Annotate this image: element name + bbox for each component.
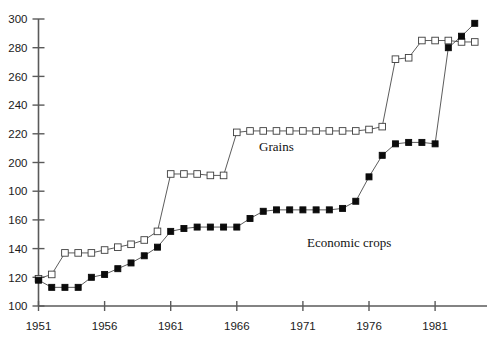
data-point-marker: [392, 141, 398, 147]
data-point-marker: [154, 228, 161, 235]
data-point-marker: [181, 226, 187, 232]
data-point-marker: [459, 33, 465, 39]
data-point-marker: [128, 241, 135, 248]
data-point-marker: [128, 260, 134, 266]
data-point-marker: [167, 171, 174, 178]
data-point-marker: [75, 250, 82, 257]
data-point-marker: [88, 274, 94, 280]
data-point-marker: [326, 128, 333, 135]
x-tick-label: 1966: [224, 320, 250, 332]
data-point-marker: [379, 152, 385, 158]
data-point-marker: [207, 172, 214, 179]
data-point-marker: [141, 237, 148, 244]
data-point-marker: [445, 37, 452, 44]
y-tick-label: 160: [8, 214, 27, 226]
y-tick-label: 260: [8, 71, 27, 83]
data-point-marker: [62, 284, 68, 290]
data-point-marker: [406, 139, 412, 145]
data-point-marker: [419, 37, 426, 44]
data-point-marker: [115, 244, 122, 251]
data-point-marker: [445, 45, 451, 51]
data-point-marker: [366, 126, 373, 133]
data-point-marker: [221, 224, 227, 230]
x-tick-label: 1961: [158, 320, 184, 332]
data-point-marker: [300, 128, 307, 135]
data-point-marker: [102, 271, 108, 277]
data-point-marker: [326, 207, 332, 213]
data-point-marker: [154, 244, 160, 250]
data-point-marker: [313, 128, 320, 135]
data-point-marker: [432, 141, 438, 147]
data-point-marker: [75, 284, 81, 290]
data-point-marker: [115, 266, 121, 272]
y-tick-label: 100: [8, 185, 27, 197]
data-point-marker: [101, 247, 108, 254]
line-chart: 100120140160100200220240260280300 195119…: [0, 0, 496, 350]
x-tick-label: 1951: [26, 320, 52, 332]
data-point-marker: [62, 250, 69, 257]
data-point-marker: [286, 128, 293, 135]
data-point-marker: [247, 128, 254, 135]
series-label: Economic crops: [307, 235, 391, 250]
data-point-marker: [194, 224, 200, 230]
y-tick-label: 100: [8, 300, 27, 312]
series-grains: [35, 37, 478, 282]
y-tick-label: 220: [8, 128, 27, 140]
data-point-marker: [273, 128, 280, 135]
chart-container: 100120140160100200220240260280300 195119…: [0, 0, 496, 350]
x-tick-label: 1981: [422, 320, 448, 332]
data-point-marker: [366, 174, 372, 180]
data-point-marker: [220, 172, 227, 179]
data-point-marker: [260, 128, 267, 135]
data-point-marker: [181, 171, 188, 178]
plot-area: [35, 20, 478, 290]
data-point-marker: [88, 250, 95, 257]
series-annotations: GrainsEconomic crops: [259, 139, 391, 250]
data-point-marker: [48, 271, 55, 278]
data-point-marker: [260, 208, 266, 214]
data-point-marker: [273, 207, 279, 213]
data-point-marker: [141, 253, 147, 259]
data-point-marker: [36, 277, 42, 283]
series-line: [39, 41, 475, 279]
y-tick-label: 140: [8, 243, 27, 255]
data-point-marker: [419, 139, 425, 145]
data-point-marker: [207, 224, 213, 230]
y-axis-group: 100120140160100200220240260280300: [8, 13, 44, 312]
data-point-marker: [432, 37, 439, 44]
data-point-marker: [471, 39, 478, 46]
y-tick-label: 280: [8, 42, 27, 54]
data-point-marker: [379, 123, 386, 130]
x-tick-label: 1971: [290, 320, 316, 332]
y-tick-label: 200: [8, 157, 27, 169]
data-point-marker: [194, 171, 201, 178]
data-point-marker: [353, 198, 359, 204]
data-point-marker: [472, 20, 478, 26]
data-point-marker: [340, 205, 346, 211]
data-point-marker: [300, 207, 306, 213]
data-point-marker: [234, 129, 241, 136]
data-point-marker: [313, 207, 319, 213]
y-tick-label: 120: [8, 272, 27, 284]
data-point-marker: [234, 224, 240, 230]
x-tick-label: 1976: [356, 320, 382, 332]
data-point-marker: [287, 207, 293, 213]
y-tick-label: 240: [8, 99, 27, 111]
data-point-marker: [168, 228, 174, 234]
x-axis-group: 1951195619611966197119761981: [26, 301, 487, 332]
data-point-marker: [49, 284, 55, 290]
data-point-marker: [247, 215, 253, 221]
data-point-marker: [392, 56, 399, 63]
series-label: Grains: [259, 139, 294, 154]
data-point-marker: [405, 54, 412, 61]
x-tick-label: 1956: [92, 320, 118, 332]
y-tick-label: 300: [8, 13, 27, 25]
data-point-marker: [352, 128, 359, 135]
data-point-marker: [339, 128, 346, 135]
